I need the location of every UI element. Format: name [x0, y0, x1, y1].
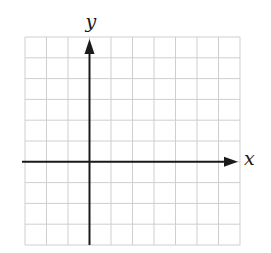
- y-axis-arrow-icon: [85, 39, 95, 54]
- y-axis-label: y: [86, 12, 97, 31]
- grid-lines: [25, 37, 240, 245]
- x-axis-label: x: [244, 149, 255, 168]
- x-axis-arrow-icon: [224, 157, 238, 167]
- coordinate-plane: x y: [0, 0, 271, 253]
- grid-svg: [0, 0, 271, 253]
- axes: [22, 39, 238, 245]
